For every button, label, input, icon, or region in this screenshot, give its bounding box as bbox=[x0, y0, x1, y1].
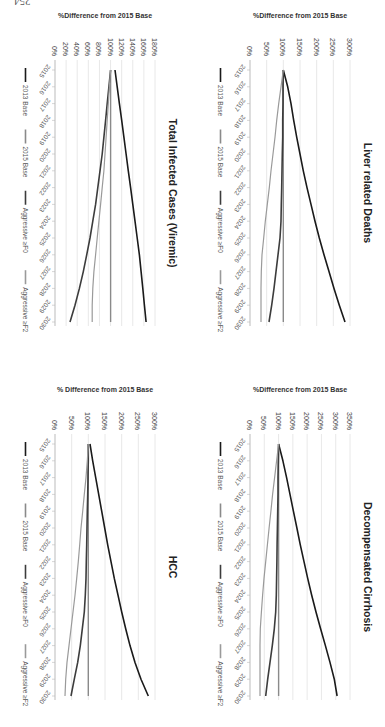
x-tick-label: 2018 bbox=[38, 488, 52, 504]
x-tick-label: 2021 bbox=[38, 538, 52, 554]
x-tick-label: 2015 bbox=[233, 438, 247, 454]
legend-label: Aggressive ≥F0 bbox=[21, 208, 29, 253]
series-line bbox=[65, 444, 88, 696]
x-tick-label: 2019 bbox=[233, 131, 247, 147]
x-tick-label: 2030 bbox=[233, 690, 247, 706]
legend-label: 2013 Base bbox=[22, 459, 29, 490]
x-tick-label: 2029 bbox=[233, 299, 247, 315]
chart-svg: Liver related Deaths0%50%100%150%200%250… bbox=[208, 8, 378, 338]
y-tick-label: 0% bbox=[246, 420, 253, 430]
y-tick-label: 200% bbox=[313, 38, 320, 56]
y-tick-label: 300% bbox=[332, 412, 339, 430]
y-tick-label: 100% bbox=[84, 412, 91, 430]
y-tick-label: 350% bbox=[346, 412, 353, 430]
x-tick-label: 2029 bbox=[38, 299, 52, 315]
chart-title: Liver related Deaths bbox=[362, 143, 374, 244]
y-tick-label: 200% bbox=[303, 412, 310, 430]
x-tick-label: 2024 bbox=[38, 589, 52, 605]
legend-label: Aggressive ≥F2 bbox=[216, 287, 224, 332]
x-tick-label: 2022 bbox=[38, 181, 52, 197]
series-line bbox=[283, 70, 345, 322]
chart-title: HCC bbox=[167, 556, 179, 579]
y-tick-label: 100% bbox=[107, 38, 114, 56]
x-tick-label: 2021 bbox=[38, 164, 52, 180]
series-line bbox=[90, 444, 148, 696]
x-tick-label: 2020 bbox=[233, 522, 247, 538]
x-tick-label: 2017 bbox=[38, 97, 52, 113]
x-tick-label: 2030 bbox=[38, 316, 52, 332]
chart-hcc: HCC0%50%100%150%200%250%300%201520162017… bbox=[13, 382, 183, 712]
x-tick-label: 2028 bbox=[38, 656, 52, 672]
y-tick-label: 300% bbox=[346, 38, 353, 56]
x-tick-label: 2018 bbox=[38, 114, 52, 130]
x-tick-label: 2018 bbox=[233, 114, 247, 130]
x-tick-label: 2015 bbox=[38, 64, 52, 80]
chart-total-infected-cases: Total Infected Cases (Viremic)0%20%40%60… bbox=[13, 8, 183, 338]
series-line bbox=[261, 70, 283, 322]
x-tick-label: 2015 bbox=[38, 438, 52, 454]
legend-label: Aggressive ≥F2 bbox=[216, 661, 224, 706]
y-tick-label: 180% bbox=[151, 38, 158, 56]
legend-label: Aggressive ≥F2 bbox=[21, 661, 29, 706]
y-tick-label: 60% bbox=[84, 42, 91, 56]
series-line bbox=[92, 70, 110, 322]
y-tick-label: 20% bbox=[62, 42, 69, 56]
x-tick-label: 2022 bbox=[38, 555, 52, 571]
x-tick-label: 2020 bbox=[38, 148, 52, 164]
y-tick-label: 0% bbox=[246, 46, 253, 56]
series-line bbox=[269, 70, 283, 322]
legend-label: 2013 Base bbox=[217, 85, 224, 116]
x-tick-label: 2016 bbox=[233, 80, 247, 96]
y-tick-label: 120% bbox=[118, 38, 125, 56]
x-tick-label: 2020 bbox=[233, 148, 247, 164]
page-number: 254 bbox=[14, 0, 31, 8]
x-tick-label: 2023 bbox=[38, 198, 52, 214]
series-line bbox=[279, 444, 338, 696]
x-tick-label: 2017 bbox=[38, 471, 52, 487]
x-tick-label: 2025 bbox=[38, 232, 52, 248]
chart-liver-related-deaths: Liver related Deaths0%50%100%150%200%250… bbox=[208, 8, 378, 338]
x-tick-label: 2022 bbox=[233, 181, 247, 197]
legend-label: 2013 Base bbox=[22, 85, 29, 116]
x-tick-label: 2023 bbox=[233, 198, 247, 214]
chart-svg: HCC0%50%100%150%200%250%300%201520162017… bbox=[13, 382, 183, 712]
series-line bbox=[266, 444, 279, 696]
x-tick-label: 2027 bbox=[233, 265, 247, 281]
x-tick-label: 2024 bbox=[38, 215, 52, 231]
x-tick-label: 2019 bbox=[38, 505, 52, 521]
x-tick-label: 2027 bbox=[38, 265, 52, 281]
legend-label: Aggressive ≥F0 bbox=[216, 582, 224, 627]
x-tick-label: 2025 bbox=[233, 232, 247, 248]
y-tick-label: 100% bbox=[275, 412, 282, 430]
x-tick-label: 2026 bbox=[38, 622, 52, 638]
y-tick-label: 0% bbox=[51, 46, 58, 56]
legend-label: 2015 Base bbox=[217, 520, 224, 551]
x-tick-label: 2027 bbox=[233, 639, 247, 655]
y-tick-label: 150% bbox=[101, 412, 108, 430]
chart-decompensated-cirrhosis: Decompensated Cirrhosis0%50%100%150%200%… bbox=[208, 382, 378, 712]
y-tick-label: 150% bbox=[296, 38, 303, 56]
y-tick-label: 50% bbox=[68, 416, 75, 430]
y-tick-label: 200% bbox=[118, 412, 125, 430]
y-tick-label: 160% bbox=[140, 38, 147, 56]
legend-label: 2015 Base bbox=[22, 520, 29, 551]
y-tick-label: 300% bbox=[151, 412, 158, 430]
legend-label: 2013 Base bbox=[217, 459, 224, 490]
x-tick-label: 2029 bbox=[38, 673, 52, 689]
series-line bbox=[260, 444, 279, 696]
x-tick-label: 2026 bbox=[38, 248, 52, 264]
series-line bbox=[115, 70, 146, 322]
x-tick-label: 2015 bbox=[233, 64, 247, 80]
x-tick-label: 2024 bbox=[233, 215, 247, 231]
x-tick-label: 2021 bbox=[233, 538, 247, 554]
y-tick-label: 0% bbox=[51, 420, 58, 430]
x-tick-label: 2019 bbox=[38, 131, 52, 147]
y-tick-label: 150% bbox=[289, 412, 296, 430]
x-tick-label: 2023 bbox=[233, 572, 247, 588]
y-axis-label: %Difference from 2015 Base bbox=[58, 12, 152, 19]
x-tick-label: 2029 bbox=[233, 673, 247, 689]
chart-title: Total Infected Cases (Viremic) bbox=[167, 119, 179, 268]
chart-svg: Decompensated Cirrhosis0%50%100%150%200%… bbox=[208, 382, 378, 712]
legend-label: Aggressive ≥F2 bbox=[21, 287, 29, 332]
x-tick-label: 2030 bbox=[233, 316, 247, 332]
